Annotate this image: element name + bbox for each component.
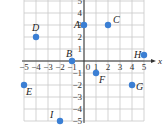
y-tick-label: −2 [72,80,82,90]
point-d [33,34,39,40]
x-tick-label: 4 [130,62,135,72]
point-label-h: H [133,49,142,60]
x-tick-label: 0 [86,62,91,72]
x-tick-label: 3 [118,62,123,72]
y-tick-label: −5 [72,116,82,126]
y-tick-label: −1 [72,68,82,78]
point-label-c: C [113,14,120,25]
y-tick-label: 2 [78,32,83,42]
point-label-a: A [73,19,81,30]
point-a [81,22,87,28]
tick-labels: −5−4−3−2−1012345−5−4−3−2−112345 [19,0,147,126]
x-tick-label: −4 [31,62,41,72]
x-axis-label: x [157,56,162,66]
point-c [105,22,111,28]
y-tick-label: 5 [78,0,83,6]
coordinate-plane: x −5−4−3−2−1012345−5−4−3−2−112345 ABCDEF… [0,0,166,132]
x-tick-label: −2 [55,62,65,72]
point-label-b: B [66,48,72,59]
x-tick-label: 5 [142,62,147,72]
point-label-f: F [98,74,106,85]
point-label-d: D [31,22,40,33]
point-g [129,82,135,88]
x-tick-label: −3 [43,62,53,72]
point-label-i: I [49,109,54,120]
y-tick-label: 1 [78,44,83,54]
point-label-e: E [25,86,32,97]
point-label-g: G [136,81,143,92]
y-tick-label: 4 [78,8,83,18]
point-h [141,52,147,58]
y-tick-label: −4 [72,104,82,114]
y-tick-label: −3 [72,92,82,102]
x-axis-arrow-icon [151,59,156,63]
point-i [57,118,63,124]
x-tick-label: −5 [19,62,29,72]
x-tick-label: 2 [106,62,111,72]
